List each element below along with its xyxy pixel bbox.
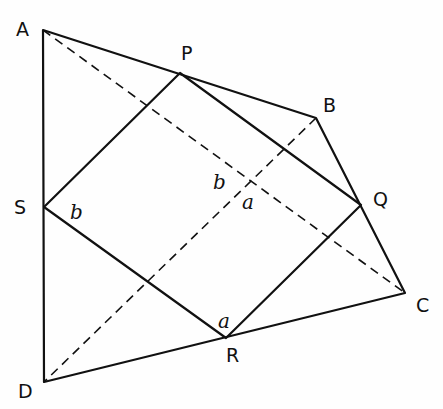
vertex-label-r: R bbox=[226, 344, 239, 366]
vertex-label-d: D bbox=[18, 380, 33, 402]
geometry-diagram: A P B Q S C R D b b a a bbox=[0, 0, 443, 409]
vertex-label-a: A bbox=[16, 18, 29, 40]
quadrilateral-pqrs bbox=[44, 73, 361, 338]
angle-label-b-at-s: b bbox=[70, 200, 83, 224]
diagram-svg: A P B Q S C R D b b a a bbox=[0, 0, 443, 409]
vertex-label-c: C bbox=[416, 294, 429, 316]
angle-label-b-at-intersection: b bbox=[213, 170, 226, 194]
vertex-label-q: Q bbox=[373, 188, 388, 210]
angle-label-a-at-intersection: a bbox=[242, 190, 254, 214]
diagonal-bd bbox=[44, 118, 316, 382]
diagonal-ac bbox=[43, 30, 405, 293]
vertex-label-s: S bbox=[14, 196, 26, 218]
vertex-label-b: B bbox=[323, 94, 336, 116]
angle-label-a-at-r: a bbox=[218, 309, 230, 333]
vertex-label-p: P bbox=[181, 42, 192, 64]
